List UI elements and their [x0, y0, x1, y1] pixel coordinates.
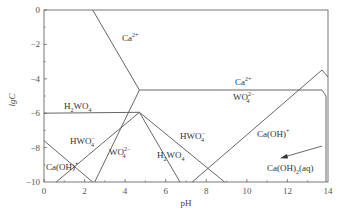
label-wo4-right: WO2−4	[233, 91, 255, 104]
label-hwo4-mid: HWO−4	[180, 130, 206, 143]
svg-text:12: 12	[283, 186, 292, 196]
label-wo4-mid: WO2−4	[109, 146, 131, 159]
svg-text:−8: −8	[30, 143, 40, 153]
svg-text:14: 14	[324, 186, 334, 196]
svg-text:8: 8	[204, 186, 209, 196]
line-h2wo4-descending	[139, 112, 180, 182]
speciation-chart: 0 2 4 6 8 10 12 14 0 −2 −4 −6 −8 −10 pH …	[0, 0, 340, 219]
label-caoh-left: Ca(OH)+	[46, 161, 79, 172]
label-ca2-mid: Ca2+	[235, 76, 252, 87]
label-h2wo4-mid: H2WO4	[157, 150, 185, 162]
x-axis-title: pH	[181, 198, 193, 208]
svg-text:4: 4	[123, 186, 128, 196]
label-hwo4-left: HWO−4	[70, 135, 96, 148]
label-h2wo4-left: H2WO4	[64, 101, 92, 113]
label-caoh-right: Ca(OH)+	[257, 128, 290, 139]
svg-text:−6: −6	[30, 108, 40, 118]
svg-text:10: 10	[242, 186, 252, 196]
svg-text:−2: −2	[30, 39, 40, 49]
line-wo4-descending	[95, 90, 140, 182]
y-axis-title: lgC	[7, 93, 17, 107]
line-h2wo4-horizontal	[44, 112, 139, 113]
line-hwo4-descending	[139, 112, 224, 182]
svg-text:−4: −4	[30, 74, 40, 84]
x-axis-ticks	[44, 179, 308, 182]
label-caoh2-aq: Ca(OH)2(aq)	[267, 163, 314, 175]
label-ca2-upper: Ca2+	[122, 32, 139, 43]
x-tick-labels: 0 2 4 6 8 10 12 14	[42, 186, 333, 196]
svg-text:6: 6	[163, 186, 168, 196]
svg-text:−10: −10	[26, 177, 41, 187]
arrow-icon	[280, 146, 322, 159]
svg-text:0: 0	[36, 5, 41, 15]
y-tick-labels: 0 −2 −4 −6 −8 −10	[26, 5, 41, 187]
line-ca-upper	[93, 10, 140, 90]
svg-text:2: 2	[82, 186, 87, 196]
svg-text:0: 0	[42, 186, 47, 196]
